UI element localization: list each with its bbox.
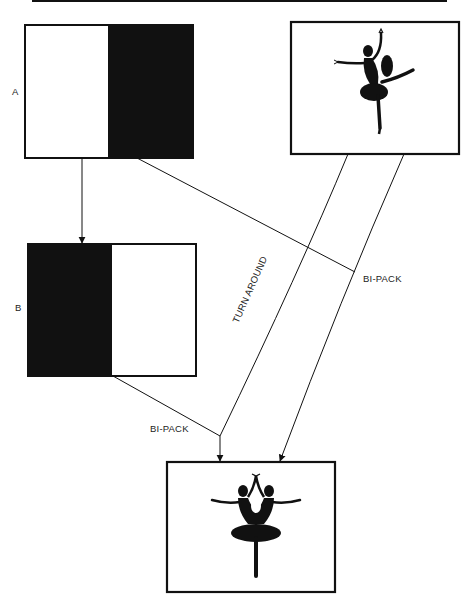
- diagram-canvas: [0, 0, 471, 599]
- frame-source: [291, 22, 459, 154]
- frame-b-black-half: [27, 243, 112, 377]
- top-rule: [32, 0, 447, 2]
- frame-a-black-half: [108, 24, 194, 158]
- label-bipack-upper: BI-PACK: [363, 273, 402, 284]
- label-bipack-lower: BI-PACK: [150, 423, 189, 434]
- frame-a: [25, 24, 194, 158]
- frame-b: [27, 243, 196, 377]
- frame-result: [167, 462, 335, 592]
- edge-source-direct: [280, 154, 404, 461]
- label-a: A: [12, 86, 19, 97]
- label-b: B: [15, 302, 22, 313]
